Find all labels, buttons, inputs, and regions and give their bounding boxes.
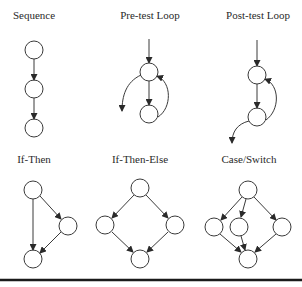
edge-arrow bbox=[241, 199, 246, 217]
edge-arrow bbox=[146, 195, 168, 218]
node bbox=[273, 218, 291, 236]
edge-arrow bbox=[112, 195, 134, 218]
node bbox=[239, 181, 257, 199]
panel-if-then-else: If-Then-Else bbox=[96, 153, 184, 268]
panel-sequence: Sequence bbox=[13, 9, 55, 137]
edge-arrow bbox=[255, 234, 276, 252]
node bbox=[25, 41, 43, 59]
panel-case-switch: Case/Switch bbox=[205, 153, 291, 268]
edge-arrow bbox=[220, 234, 241, 252]
node bbox=[25, 80, 43, 98]
edge-arrow bbox=[241, 236, 245, 250]
edge-arrow bbox=[112, 232, 133, 252]
edge-arrow bbox=[147, 232, 168, 252]
label-case-switch: Case/Switch bbox=[222, 153, 277, 165]
label-if-then: If-Then bbox=[17, 153, 51, 165]
exit-arrow bbox=[122, 75, 141, 111]
panel-pre-test-loop: Pre-test Loop bbox=[120, 9, 180, 123]
node bbox=[24, 181, 42, 199]
node bbox=[131, 250, 149, 268]
node bbox=[166, 216, 184, 234]
node bbox=[205, 218, 223, 236]
node bbox=[239, 250, 257, 268]
node bbox=[25, 119, 43, 137]
edge-arrow bbox=[40, 196, 61, 219]
label-pre-test-loop: Pre-test Loop bbox=[120, 9, 180, 21]
node bbox=[96, 216, 114, 234]
node bbox=[24, 250, 42, 268]
label-if-then-else: If-Then-Else bbox=[112, 153, 168, 165]
node bbox=[131, 179, 149, 197]
node bbox=[248, 108, 266, 126]
exit-arrow bbox=[232, 121, 249, 143]
node bbox=[230, 218, 248, 236]
loop-back-arrow bbox=[157, 76, 168, 117]
label-sequence: Sequence bbox=[13, 9, 55, 21]
edge-arrow bbox=[221, 197, 242, 220]
panel-post-test-loop: Post-test Loop bbox=[226, 9, 290, 143]
edge-arrow bbox=[254, 197, 276, 220]
node bbox=[59, 217, 77, 235]
control-flow-diagram: Sequence Pre-test Loop Post-test Loop If… bbox=[0, 0, 302, 287]
label-post-test-loop: Post-test Loop bbox=[226, 9, 290, 21]
edge-arrow bbox=[40, 232, 61, 253]
panel-if-then: If-Then bbox=[17, 153, 77, 268]
node bbox=[248, 66, 266, 84]
node bbox=[140, 63, 158, 81]
loop-back-arrow bbox=[265, 79, 276, 120]
node bbox=[140, 105, 158, 123]
